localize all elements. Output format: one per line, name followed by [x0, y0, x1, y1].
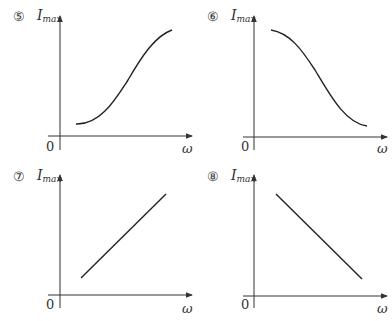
graph-options-figure: ⑤ Imax 0 ω ⑥ Imax 0 ω ⑦ Imax 0 ω ⑧ Imax … [0, 0, 392, 321]
panel-marker: ⑤ [13, 9, 25, 24]
panel-marker: ⑥ [207, 9, 219, 24]
y-axis-label: Imax [230, 167, 256, 184]
curve-s-increasing [76, 30, 172, 124]
x-axis-label: ω [377, 301, 388, 316]
y-axis-label: Imax [36, 7, 62, 24]
x-axis-label: ω [182, 301, 193, 316]
y-axis-label: Imax [36, 167, 62, 184]
x-axis-label: ω [377, 141, 388, 156]
origin-label: 0 [46, 139, 54, 154]
panel-marker: ⑧ [207, 169, 219, 184]
origin-label: 0 [46, 297, 54, 312]
x-axis-label: ω [182, 141, 193, 156]
origin-label: 0 [241, 139, 249, 154]
panel-8: ⑧ Imax 0 ω [207, 167, 388, 316]
panel-marker: ⑦ [13, 169, 25, 184]
y-axis-label: Imax [230, 7, 256, 24]
origin-label: 0 [241, 297, 249, 312]
panel-5: ⑤ Imax 0 ω [13, 7, 193, 156]
line-decreasing [276, 194, 362, 279]
line-increasing [81, 194, 166, 278]
panel-6: ⑥ Imax 0 ω [207, 7, 388, 156]
curve-s-decreasing [271, 30, 367, 126]
panel-7: ⑦ Imax 0 ω [13, 167, 193, 316]
